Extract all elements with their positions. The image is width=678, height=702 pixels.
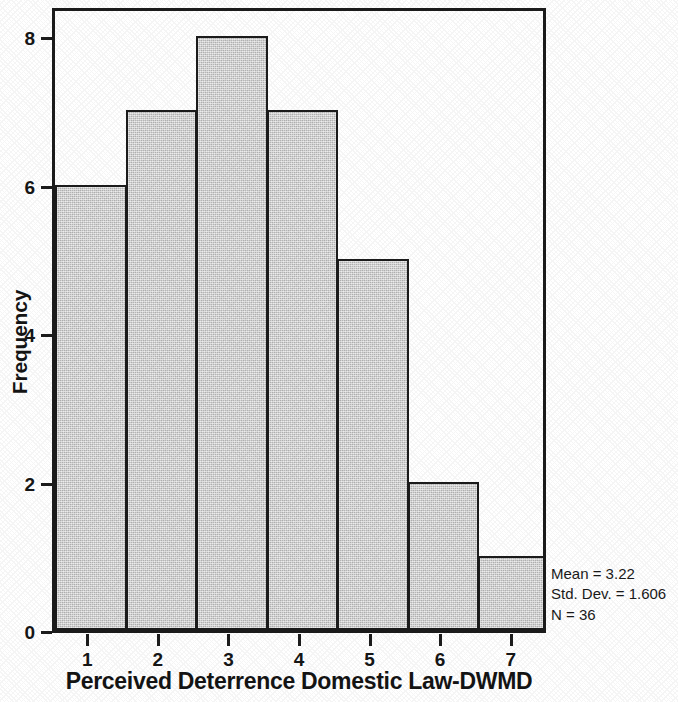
histogram-bar	[408, 482, 480, 631]
histogram-bar	[196, 36, 268, 630]
x-tick-label: 2	[143, 650, 173, 669]
plot-frame	[52, 8, 546, 633]
y-tick-label: 2	[11, 475, 35, 494]
histogram-figure: Frequency 02468 1234567 Perceived Deterr…	[0, 0, 678, 702]
y-tick-label: 8	[11, 29, 35, 48]
y-tick-mark	[41, 483, 52, 486]
y-tick-label: 0	[11, 623, 35, 642]
x-tick-mark	[510, 634, 513, 646]
stat-std-dev: Std. Dev. = 1.606	[551, 584, 666, 604]
x-tick-label: 6	[425, 650, 455, 669]
y-tick-label: 4	[11, 326, 35, 345]
plot-area	[55, 11, 543, 630]
histogram-bar	[126, 110, 198, 630]
histogram-bar	[55, 185, 127, 631]
histogram-bar	[478, 556, 543, 630]
y-tick-mark	[41, 631, 52, 634]
x-tick-mark	[369, 634, 372, 646]
x-tick-label: 7	[496, 650, 526, 669]
y-tick-mark	[41, 334, 52, 337]
x-tick-label: 4	[284, 650, 314, 669]
x-axis-title: Perceived Deterrence Domestic Law-DWMD	[52, 668, 546, 695]
x-tick-label: 3	[213, 650, 243, 669]
x-tick-label: 1	[72, 650, 102, 669]
x-tick-mark	[439, 634, 442, 646]
x-tick-mark	[157, 634, 160, 646]
stat-mean: Mean = 3.22	[551, 564, 666, 584]
histogram-bar	[337, 259, 409, 630]
x-tick-mark	[227, 634, 230, 646]
histogram-bar	[267, 110, 339, 630]
x-tick-mark	[298, 634, 301, 646]
y-tick-mark	[41, 37, 52, 40]
y-tick-mark	[41, 186, 52, 189]
x-tick-label: 5	[355, 650, 385, 669]
statistics-annotation: Mean = 3.22 Std. Dev. = 1.606 N = 36	[551, 564, 666, 625]
y-tick-label: 6	[11, 178, 35, 197]
x-tick-mark	[86, 634, 89, 646]
stat-n: N = 36	[551, 605, 666, 625]
